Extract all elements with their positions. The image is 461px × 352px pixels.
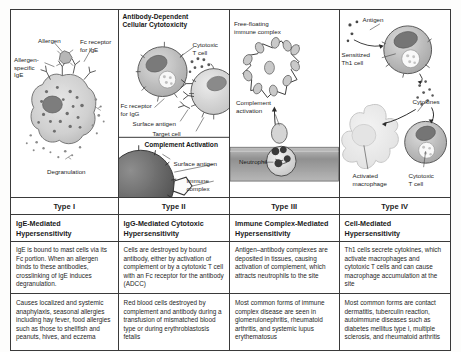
type-label-cell-3: Type III bbox=[230, 198, 340, 215]
name-cell-2: IgG-Mediated Cytotoxic Hypersensitivity bbox=[119, 215, 231, 242]
mechanism-cell-4: Th1 cells secrete cytokines, which activ… bbox=[340, 242, 451, 294]
mechanism-cell-1: IgE is bound to mast cells via its Fc po… bbox=[11, 242, 119, 294]
type-4-label-sensitized-th1: Sensitized Th1 cell bbox=[342, 51, 371, 66]
mechanism-row: IgE is bound to mast cells via its Fc po… bbox=[11, 242, 450, 294]
diagram-cell-type-2: Antibody-Dependent Cellular Cytotoxicity… bbox=[119, 10, 231, 198]
type-label-1: Type I bbox=[11, 198, 118, 215]
type-2-panel-title: Antibody-Dependent Cellular Cytotoxicity bbox=[123, 13, 189, 29]
diagram-cell-type-1: Allergen Fc receptor for IgE Allergen- s… bbox=[11, 10, 119, 198]
name-cell-1: IgE-Mediated Hypersensitivity bbox=[11, 215, 119, 242]
type-label-3: Type III bbox=[230, 198, 339, 215]
type-4-label-antigen: Antigen bbox=[363, 16, 384, 24]
type-3-label-complement-activation: Complement activation bbox=[236, 99, 271, 114]
figure-root: Allergen Fc receptor for IgE Allergen- s… bbox=[0, 0, 461, 352]
type-label-2: Type II bbox=[119, 198, 230, 215]
type-2-label-surface-antigen-2: Surface antigen bbox=[174, 160, 217, 168]
mechanism-text-1: IgE is bound to mast cells via its Fc po… bbox=[11, 242, 118, 289]
examples-text-4: Most common forms are contact dermatitis… bbox=[340, 294, 451, 342]
examples-cell-2: Red blood cells destroyed by complement … bbox=[119, 294, 231, 350]
mechanism-text-2: Cells are destroyed by bound antibody, e… bbox=[119, 242, 230, 289]
mechanism-cell-2: Cells are destroyed by bound antibody, e… bbox=[119, 242, 231, 294]
name-cell-4: Cell-Mediated Hypersensitivity bbox=[340, 215, 451, 242]
hypersensitivity-name-row: IgE-Mediated Hypersensitivity IgG-Mediat… bbox=[11, 215, 450, 242]
mechanism-text-3: Antigen–antibody complexes are deposited… bbox=[230, 242, 339, 280]
type-2-label-surface-antigen: Surface antigen bbox=[133, 120, 176, 128]
type-label-cell-2: Type II bbox=[119, 198, 231, 215]
type-label-4: Type IV bbox=[340, 198, 451, 215]
type-2-label-fc-receptor-igg: Fc receptor for IgG bbox=[121, 102, 152, 117]
examples-text-3: Most common forms of immune complex dise… bbox=[230, 294, 339, 342]
examples-cell-3: Most common forms of immune complex dise… bbox=[230, 294, 340, 350]
type-1-label-degranulation: Degranulation bbox=[47, 168, 86, 176]
type-2-panel-subtitle: Complement Activation bbox=[145, 141, 218, 149]
diagram-cell-type-4: Antigen Sensitized Th1 cell Cytokines Ac… bbox=[340, 10, 451, 198]
type-4-label-cytokines: Cytokines bbox=[413, 98, 440, 106]
name-cell-3: Immune Complex-Mediated Hypersensitivity bbox=[230, 215, 340, 242]
type-3-label-free-floating-complex: Free-floating immune complex bbox=[234, 20, 281, 35]
examples-row: Causes localized and systemic anaphylaxi… bbox=[11, 294, 450, 350]
mechanism-text-4: Th1 cells secrete cytokines, which activ… bbox=[340, 242, 451, 289]
type-2-label-target-cell: Target cell bbox=[153, 130, 181, 138]
name-label-4: Cell-Mediated Hypersensitivity bbox=[340, 215, 451, 238]
type-2-label-immune-complex: Immune complex bbox=[187, 177, 210, 192]
examples-cell-1: Causes localized and systemic anaphylaxi… bbox=[11, 294, 119, 350]
diagram-row: Allergen Fc receptor for IgE Allergen- s… bbox=[11, 10, 450, 198]
type-1-label-ige: Allergen- specific IgE bbox=[14, 56, 39, 79]
type-label-cell-1: Type I bbox=[11, 198, 119, 215]
hypersensitivity-table: Allergen Fc receptor for IgE Allergen- s… bbox=[10, 9, 451, 351]
type-label-cell-4: Type IV bbox=[340, 198, 451, 215]
examples-cell-4: Most common forms are contact dermatitis… bbox=[340, 294, 451, 350]
name-label-1: IgE-Mediated Hypersensitivity bbox=[11, 215, 118, 238]
type-label-row: Type I Type II Type III Type IV bbox=[11, 198, 450, 215]
type-1-label-fc-receptor: Fc receptor for IgE bbox=[80, 38, 111, 53]
type-2-label-cytotoxic-t-cell: Cytotoxic T cell bbox=[193, 41, 218, 56]
type-4-label-activated-macrophage: Activated macrophage bbox=[353, 172, 387, 187]
type-1-label-allergen: Allergen bbox=[38, 37, 61, 45]
examples-text-1: Causes localized and systemic anaphylaxi… bbox=[11, 294, 118, 342]
type-4-label-cytotoxic-t-cell: Cytotoxic T cell bbox=[409, 172, 434, 187]
examples-text-2: Red blood cells destroyed by complement … bbox=[119, 294, 230, 342]
mechanism-cell-3: Antigen–antibody complexes are deposited… bbox=[230, 242, 340, 294]
diagram-cell-type-3: Free-floating immune complex Complement … bbox=[230, 10, 340, 198]
name-label-3: Immune Complex-Mediated Hypersensitivity bbox=[230, 215, 339, 238]
type-3-label-neutrophil: Neutrophil bbox=[239, 158, 267, 166]
name-label-2: IgG-Mediated Cytotoxic Hypersensitivity bbox=[119, 215, 230, 238]
